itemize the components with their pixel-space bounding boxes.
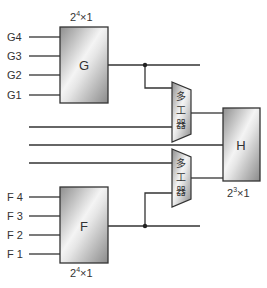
input-f2: F 2 [7,229,23,241]
lut-f-size: 24×1 [70,266,93,279]
mux-bottom-char-1: 多 [176,157,186,169]
mux-top-char-2: 工 [176,105,186,116]
input-f4: F 4 [7,191,23,203]
input-f3: F 3 [7,210,23,222]
input-f1: F 1 [7,248,23,260]
lut-f-label: F [80,219,88,234]
junction-dot-g [143,63,147,67]
input-g3: G3 [7,50,22,62]
mux-top-char-1: 多 [176,90,186,102]
input-g4: G4 [7,31,22,43]
junction-dot-f [143,224,147,228]
mux-bottom-char-3: 器 [176,186,186,197]
input-g1: G1 [7,89,22,101]
lut-g-size: 24×1 [70,10,93,23]
input-g2: G2 [7,69,22,81]
lut-h-label: H [236,138,245,153]
mux-top-char-3: 器 [176,119,186,130]
lut-g-label: G [79,58,89,73]
lut-h-size: 23×1 [227,186,250,199]
wires [29,37,223,254]
mux-bottom-char-2: 工 [176,172,186,183]
lut-mux-diagram: 多 工 器 多 工 器 G F H 24×1 24×1 23×1 G4 G3 G… [0,0,267,288]
